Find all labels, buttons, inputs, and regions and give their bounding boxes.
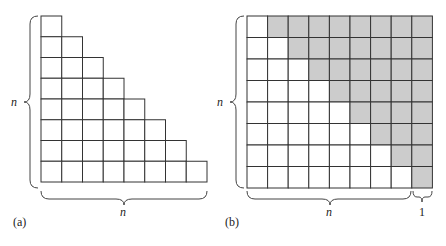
left-label-b: n (217, 95, 223, 109)
shaded-cell (412, 16, 433, 38)
shaded-cell (412, 145, 433, 167)
grid-cell (41, 99, 62, 120)
white-cell (288, 145, 309, 167)
grid-cell (145, 141, 166, 162)
white-cell (309, 102, 330, 124)
white-cell (247, 124, 268, 146)
white-cell (371, 145, 392, 167)
white-cell (268, 167, 289, 189)
grid-cell (41, 141, 62, 162)
white-cell (288, 59, 309, 81)
shaded-cell (309, 16, 330, 38)
diagram-canvas: n n (a) n n 1 (b) (0, 0, 446, 246)
grid-cell (103, 120, 124, 141)
grid-cell (62, 78, 83, 99)
shaded-cell (309, 38, 330, 60)
grid-cell (103, 161, 124, 182)
white-cell (309, 81, 330, 103)
grid-cell (83, 120, 104, 141)
shaded-cell (350, 81, 371, 103)
white-cell (350, 167, 371, 189)
white-cell (268, 59, 289, 81)
white-cell (309, 145, 330, 167)
panel-a-staircase (41, 16, 207, 182)
shaded-cell (309, 59, 330, 81)
grid-cell (62, 120, 83, 141)
white-cell (329, 167, 350, 189)
white-cell (391, 167, 412, 189)
white-cell (247, 38, 268, 60)
shaded-cell (391, 145, 412, 167)
white-cell (350, 124, 371, 146)
shaded-cell (371, 102, 392, 124)
shaded-cell (412, 81, 433, 103)
grid-cell (83, 78, 104, 99)
shaded-cell (371, 38, 392, 60)
grid-cell (124, 99, 145, 120)
white-cell (268, 102, 289, 124)
shaded-cell (329, 59, 350, 81)
grid-cell (124, 120, 145, 141)
white-cell (350, 145, 371, 167)
grid-cell (103, 78, 124, 99)
shaded-cell (268, 16, 289, 38)
shaded-cell (412, 167, 433, 189)
shaded-cell (329, 81, 350, 103)
grid-cell (41, 161, 62, 182)
shaded-cell (350, 59, 371, 81)
bottom-brace-b (247, 191, 411, 205)
white-cell (247, 16, 268, 38)
grid-cell (41, 37, 62, 58)
shaded-cell (391, 59, 412, 81)
shaded-cell (371, 81, 392, 103)
grid-cell (41, 16, 62, 37)
shaded-cell (371, 16, 392, 38)
shaded-cell (391, 38, 412, 60)
bottom-label-a: n (120, 205, 126, 219)
grid-cell (62, 161, 83, 182)
grid-cell (186, 161, 207, 182)
shaded-cell (371, 59, 392, 81)
shaded-cell (350, 16, 371, 38)
white-cell (268, 145, 289, 167)
grid-cell (83, 161, 104, 182)
shaded-cell (350, 102, 371, 124)
white-cell (309, 167, 330, 189)
white-cell (329, 102, 350, 124)
shaded-cell (350, 38, 371, 60)
shaded-cell (391, 124, 412, 146)
white-cell (288, 167, 309, 189)
left-brace-a (24, 16, 38, 188)
white-cell (268, 124, 289, 146)
grid-cell (124, 141, 145, 162)
shaded-cell (391, 102, 412, 124)
shaded-cell (412, 59, 433, 81)
caption-b: (b) (225, 215, 239, 229)
panel-b-rectangle (247, 16, 432, 188)
left-label-a: n (11, 95, 17, 109)
grid-cell (41, 120, 62, 141)
white-cell (247, 59, 268, 81)
grid-cell (145, 161, 166, 182)
grid-cell (83, 99, 104, 120)
white-cell (309, 124, 330, 146)
caption-a: (a) (13, 215, 26, 229)
white-cell (247, 167, 268, 189)
white-cell (268, 38, 289, 60)
grid-cell (41, 78, 62, 99)
shaded-cell (391, 16, 412, 38)
white-cell (288, 124, 309, 146)
white-cell (329, 124, 350, 146)
shaded-cell (412, 102, 433, 124)
grid-cell (41, 58, 62, 79)
white-cell (247, 81, 268, 103)
grid-cell (166, 141, 187, 162)
grid-cell (62, 99, 83, 120)
white-cell (329, 145, 350, 167)
grid-cell (83, 58, 104, 79)
grid-cell (145, 120, 166, 141)
shaded-cell (412, 124, 433, 146)
white-cell (247, 145, 268, 167)
grid-cell (124, 161, 145, 182)
shaded-cell (391, 81, 412, 103)
